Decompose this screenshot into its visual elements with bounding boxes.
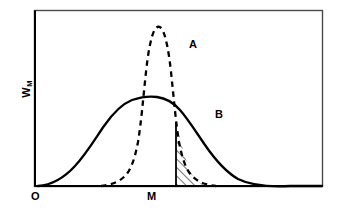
figure-container: WM O M A B — [0, 0, 338, 215]
y-axis-label: WM — [20, 72, 34, 106]
y-axis-label-subscript: M — [25, 80, 34, 86]
curve-b-label: B — [215, 108, 223, 120]
origin-label: O — [31, 190, 40, 202]
distribution-plot — [0, 0, 338, 215]
curve-a-label: A — [189, 38, 197, 50]
y-axis-label-main: W — [20, 87, 32, 98]
x-axis-label: M — [147, 190, 156, 202]
